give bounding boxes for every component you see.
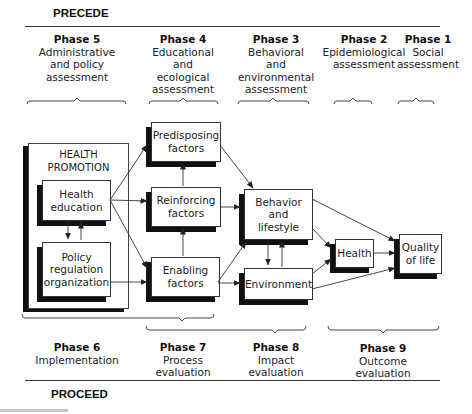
phase-1: Phase 1 Social assessment <box>392 33 464 71</box>
arrow-enabling-to-behavior <box>218 242 246 282</box>
phase-desc: Behavioral and environmental assessment <box>232 46 320 96</box>
phase-title: Phase 4 <box>140 33 226 46</box>
brace-phase-6 <box>22 314 214 321</box>
phase-title: Phase 3 <box>232 33 320 46</box>
brace-phase-5 <box>27 98 126 104</box>
brace-phase-9 <box>328 326 439 333</box>
phase-3: Phase 3 Behavioral and environmental ass… <box>232 33 320 96</box>
phase-6: Phase 6 Implementation <box>22 341 132 366</box>
node-reinforcing-factors: Reinforcing factors <box>151 187 221 227</box>
node-health-education: Health education <box>42 180 111 221</box>
brace-phase-3 <box>238 98 309 104</box>
phase-title: Phase 6 <box>22 341 132 354</box>
phase-5: Phase 5 Administrative and policy assess… <box>22 33 132 83</box>
phase-7: Phase 7 Process evaluation <box>144 341 222 379</box>
arrow-environment-to-quality <box>312 268 395 289</box>
brace-phase-7-8 <box>146 326 306 333</box>
arrow-predisposing-to-behavior <box>220 145 253 188</box>
phase-4: Phase 4 Educational and ecological asses… <box>140 33 226 96</box>
phase-desc: Social assessment <box>392 46 464 71</box>
brace-phase-4 <box>149 98 218 104</box>
node-predisposing-factors: Predisposing factors <box>151 122 221 162</box>
scan-artifact <box>0 409 68 412</box>
precede-rule <box>25 26 212 27</box>
brace-phase-1 <box>398 98 434 104</box>
node-enabling-factors: Enabling factors <box>151 257 220 297</box>
phase-title: Phase 9 <box>343 342 423 355</box>
phase-desc: Impact evaluation <box>237 354 315 379</box>
node-policy-regulation-organization: Policy regulation organization <box>42 242 111 297</box>
brace-phase-2 <box>334 98 372 104</box>
phase-title: Phase 5 <box>22 33 132 46</box>
phase-9: Phase 9 Outcome evaluation <box>343 342 423 380</box>
node-health: Health <box>335 239 374 268</box>
phase-desc: Implementation <box>22 354 132 367</box>
node-behavior-lifestyle: Behavior and lifestyle <box>244 189 313 240</box>
phase-title: Phase 1 <box>392 33 464 46</box>
node-quality-of-life: Quality of life <box>399 234 442 274</box>
arrow-environment-to-health <box>312 259 331 274</box>
phase-desc: Administrative and policy assessment <box>22 46 132 84</box>
precede-label: PRECEDE <box>53 7 109 19</box>
precede-rule-right <box>212 26 440 27</box>
arrow-behavior-to-health <box>312 228 331 248</box>
node-environment: Environment <box>244 268 313 300</box>
phase-8: Phase 8 Impact evaluation <box>237 341 315 379</box>
proceed-label: PROCEED <box>51 388 108 400</box>
health-promotion-label: HEALTH PROMOTION <box>29 149 128 174</box>
phase-desc: Outcome evaluation <box>343 355 423 380</box>
phase-title: Phase 8 <box>237 341 315 354</box>
phase-desc: Educational and ecological assessment <box>140 46 226 96</box>
phase-desc: Process evaluation <box>144 354 222 379</box>
arrow-behavior-to-quality <box>312 199 395 241</box>
phase-title: Phase 7 <box>144 341 222 354</box>
proceed-rule <box>25 380 440 381</box>
